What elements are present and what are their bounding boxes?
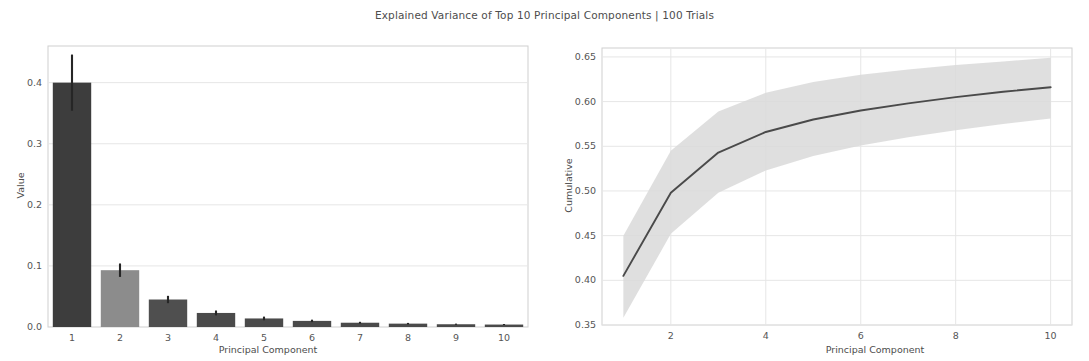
confidence-band (623, 58, 1050, 318)
line-chart-plot (540, 0, 1089, 361)
bar-chart-plot (0, 0, 540, 361)
bar (149, 300, 187, 327)
line-chart-panel: Cumulative 0.350.400.450.500.550.600.65 … (540, 0, 1089, 361)
figure-canvas: Explained Variance of Top 10 Principal C… (0, 0, 1089, 361)
bar-chart-panel: Value 0.00.10.20.30.4 12345678910 Princi… (0, 0, 540, 361)
bar (101, 270, 139, 327)
bar (53, 83, 91, 327)
